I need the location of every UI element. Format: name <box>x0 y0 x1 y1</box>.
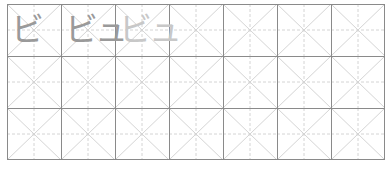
practice-char-3: ビュ <box>119 4 179 56</box>
practice-char-1: ビ <box>11 4 41 56</box>
grid-lines <box>7 4 385 160</box>
practice-char-2: ビュ <box>65 4 125 56</box>
practice-grid: ビ ビュ ビュ <box>7 4 385 160</box>
